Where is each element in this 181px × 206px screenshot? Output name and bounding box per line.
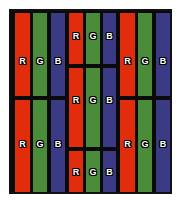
middle-group-stripe-green xyxy=(86,11,100,192)
middle-group-stripe-green-row-top xyxy=(86,13,100,64)
middle-group-stripe-blue xyxy=(103,11,116,192)
left-group-stripe-red xyxy=(15,11,30,192)
left-group-stripe-blue xyxy=(51,11,65,192)
right-group-stripe-red xyxy=(120,11,135,192)
right-group: RGBRGB xyxy=(120,11,170,192)
right-group-stripe-blue-row-top xyxy=(156,13,170,96)
middle-group-stripe-blue-row-bottom xyxy=(103,151,116,192)
left-group-stripe-green xyxy=(33,11,47,192)
stripe-panel: RGBRGBRGBRGBRGBRGBRGB xyxy=(9,9,172,194)
right-group-stripe-blue xyxy=(156,11,170,192)
left-group-stripe-green-row-top xyxy=(33,13,47,96)
left-group-stripe-green-row-bottom xyxy=(33,100,47,192)
right-group-stripe-red-row-top xyxy=(120,13,135,96)
left-group-stripe-blue-row-bottom xyxy=(51,100,65,192)
right-group-stripe-green-row-bottom xyxy=(138,100,152,192)
right-group-stripe-red-row-bottom xyxy=(120,100,135,192)
middle-group-stripe-blue-row-top xyxy=(103,13,116,64)
middle-group-stripe-blue-row-middle xyxy=(103,68,116,147)
middle-group-stripe-green-row-bottom xyxy=(86,151,100,192)
left-group-stripe-red-row-bottom xyxy=(15,100,30,192)
right-group-stripe-green-row-top xyxy=(138,13,152,96)
left-group-stripe-blue-row-top xyxy=(51,13,65,96)
middle-group-stripe-green-row-middle xyxy=(86,68,100,147)
left-group-stripe-red-row-top xyxy=(15,13,30,96)
middle-group-stripe-red-row-bottom xyxy=(69,151,83,192)
right-group-stripe-green xyxy=(138,11,152,192)
middle-group-stripe-red-row-top xyxy=(69,13,83,64)
right-group-stripe-blue-row-bottom xyxy=(156,100,170,192)
middle-group-stripe-red-row-middle xyxy=(69,68,83,147)
middle-group-stripe-red xyxy=(69,11,83,192)
left-group: RGBRGB xyxy=(15,11,65,192)
rgb-stripe-figure: RGBRGBRGBRGBRGBRGBRGB xyxy=(0,0,181,206)
middle-group: RGBRGBRGB xyxy=(69,11,116,192)
